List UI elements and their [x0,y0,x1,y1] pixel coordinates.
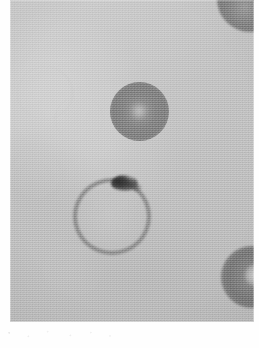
ghost-erythrocyte [54,96,104,142]
figure-root [0,0,259,348]
page-margin-right [254,0,259,348]
micrograph-plate [10,0,254,322]
ghost-erythrocyte [40,244,104,296]
ghost-erythrocyte [128,14,182,62]
print-speckle [2,328,122,340]
ghost-erythrocyte [10,150,62,198]
cell-ring-infected-lumen [80,185,144,248]
chromatin-dot-satellite [132,184,142,192]
cell-stained-upper-center-highlight [130,102,148,120]
page-margin-left [0,0,10,348]
